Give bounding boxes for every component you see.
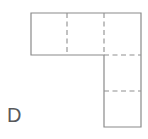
figure-label: D (7, 104, 22, 126)
shape-diagram (0, 0, 148, 139)
shape-outline-path (31, 13, 141, 127)
figure-canvas (0, 0, 148, 139)
